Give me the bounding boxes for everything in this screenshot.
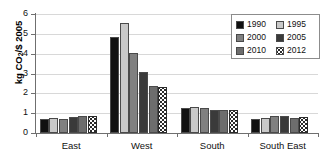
legend-label-1990: 1990	[247, 20, 266, 29]
x-axis-label-west: West	[107, 140, 178, 151]
bar-chart: kg CO2/$ 2005 0123456 EastWestSouthSouth…	[0, 0, 328, 163]
legend-entry-2012[interactable]: 2012	[276, 46, 316, 55]
y-tick-label: 0	[10, 127, 28, 137]
x-axis-label-south-east: South East	[248, 140, 319, 151]
y-tick-label: 1	[10, 107, 28, 117]
legend-label-2000: 2000	[247, 33, 266, 42]
legend-entry-1995[interactable]: 1995	[276, 20, 316, 29]
y-tick-mark	[31, 14, 35, 15]
bar-west-1995	[120, 23, 129, 133]
bar-south-east-1990	[251, 119, 260, 133]
x-tick-mark	[107, 133, 108, 137]
legend-label-2005: 2005	[287, 33, 306, 42]
bar-west-2010	[149, 86, 158, 133]
legend-label-2010: 2010	[247, 46, 266, 55]
x-axis-label-south: South	[177, 140, 248, 151]
bar-south-2012	[229, 110, 238, 133]
bar-south-east-2000	[270, 116, 279, 133]
y-tick-label: 2	[10, 87, 28, 97]
legend-swatch-2012-icon	[276, 47, 284, 55]
y-tick-mark	[31, 54, 35, 55]
bar-south-1990	[181, 108, 190, 133]
legend-row: 19901995	[236, 18, 316, 31]
legend-swatch-2010-icon	[236, 47, 244, 55]
legend-row: 20002005	[236, 31, 316, 44]
bar-west-1990	[110, 37, 119, 133]
legend-entry-2005[interactable]: 2005	[276, 33, 316, 42]
bar-group	[181, 14, 238, 133]
bar-south-east-2010	[290, 118, 299, 133]
legend-swatch-2005-icon	[276, 34, 284, 42]
y-tick-mark	[31, 113, 35, 114]
bar-west-2005	[139, 72, 148, 133]
y-tick-label: 4	[10, 48, 28, 58]
y-tick-label: 6	[10, 8, 28, 18]
x-tick-mark	[248, 133, 249, 137]
legend-entry-2010[interactable]: 2010	[236, 46, 276, 55]
bar-south-2000	[200, 108, 209, 133]
y-tick-mark	[31, 34, 35, 35]
legend-entry-2000[interactable]: 2000	[236, 33, 276, 42]
legend-swatch-1990-icon	[236, 21, 244, 29]
x-tick-mark	[318, 133, 319, 137]
bar-east-2010	[78, 116, 87, 133]
bar-group	[110, 14, 167, 133]
legend-label-2012: 2012	[287, 46, 306, 55]
legend-swatch-1995-icon	[276, 21, 284, 29]
y-tick-label: 3	[10, 68, 28, 78]
x-axis-label-east: East	[36, 140, 107, 151]
legend-swatch-2000-icon	[236, 34, 244, 42]
x-tick-mark	[177, 133, 178, 137]
bar-east-2012	[88, 116, 97, 133]
legend-row: 20102012	[236, 44, 316, 57]
bar-east-2000	[59, 119, 68, 133]
bar-south-2010	[219, 110, 228, 133]
y-tick-label: 5	[10, 28, 28, 38]
bar-group	[40, 14, 97, 133]
y-tick-mark	[31, 133, 35, 134]
bar-east-1990	[40, 119, 49, 133]
legend-entry-1990[interactable]: 1990	[236, 20, 276, 29]
y-tick-mark	[31, 74, 35, 75]
y-tick-mark	[31, 93, 35, 94]
bar-south-2005	[210, 110, 219, 133]
bar-south-east-2005	[280, 116, 289, 133]
bar-east-1995	[49, 118, 58, 133]
bar-south-east-1995	[261, 118, 270, 133]
bar-west-2000	[129, 53, 138, 133]
bar-east-2005	[69, 117, 78, 133]
bar-south-east-2012	[299, 117, 308, 133]
chart-legend: 199019952000200520102012	[231, 14, 320, 59]
x-tick-mark	[36, 133, 37, 137]
legend-label-1995: 1995	[287, 20, 306, 29]
bar-south-1995	[190, 107, 199, 133]
bar-west-2012	[158, 87, 167, 133]
